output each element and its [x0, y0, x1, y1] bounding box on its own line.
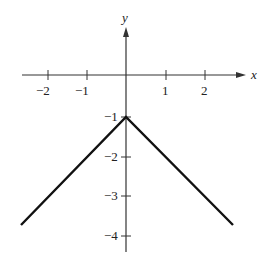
y-tick-label-neg2: −2 — [104, 149, 118, 164]
y-axis-arrow-icon — [123, 27, 129, 37]
y-tick-label-neg1: −1 — [104, 109, 118, 124]
x-axis-arrow-icon — [236, 72, 246, 78]
y-tick-label-neg4: −4 — [104, 228, 118, 243]
x-axis-label: x — [250, 67, 257, 82]
y-tick-label-neg3: −3 — [104, 188, 118, 203]
x-tick-label-neg2: −2 — [36, 83, 50, 98]
x-tick-label-1: 1 — [162, 83, 169, 98]
y-axis-label: y — [120, 10, 128, 25]
x-tick-label-2: 2 — [201, 83, 208, 98]
function-graph: x y −2 −1 1 2 −1 −2 −3 −4 — [0, 0, 269, 254]
graph-line — [21, 117, 233, 225]
x-tick-label-neg1: −1 — [75, 83, 89, 98]
